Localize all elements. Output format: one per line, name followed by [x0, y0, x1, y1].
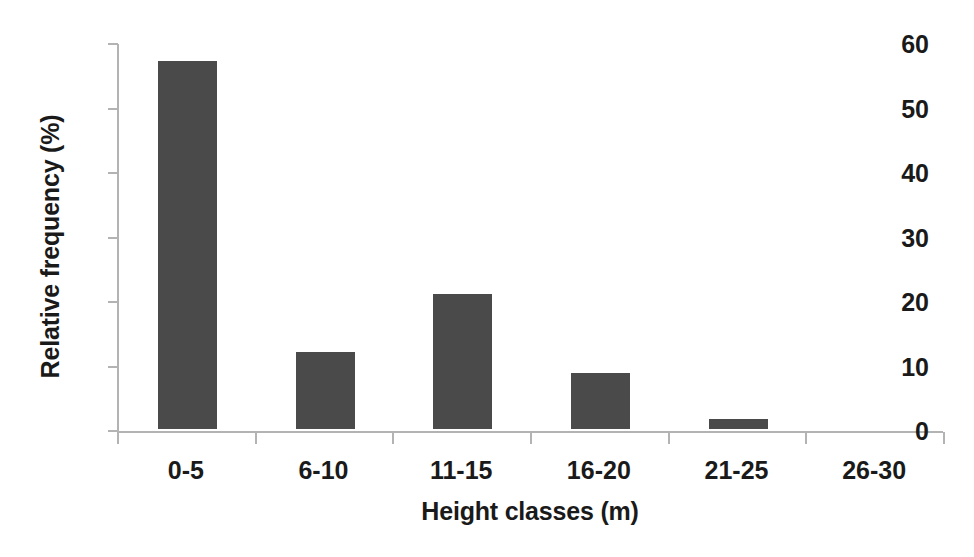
x-tick-label: 6-10 [244, 458, 404, 483]
x-tick-mark [668, 432, 670, 444]
y-tick-mark [108, 366, 118, 368]
y-tick-mark [108, 172, 118, 174]
bar-chart: Relative frequency (%) 6050403020100 0-5… [0, 0, 974, 557]
y-tick-label: 50 [849, 96, 929, 121]
x-tick-label: 0-5 [106, 458, 266, 483]
bar [158, 61, 217, 429]
bar [709, 419, 768, 429]
x-tick-mark [392, 432, 394, 444]
x-tick-label: 26-30 [794, 458, 954, 483]
x-tick-label: 16-20 [519, 458, 679, 483]
x-tick-label: 11-15 [381, 458, 541, 483]
bar [571, 373, 630, 429]
x-tick-mark [805, 432, 807, 444]
y-tick-mark [108, 108, 118, 110]
x-tick-label: 21-25 [657, 458, 817, 483]
y-tick-label: 20 [849, 290, 929, 315]
y-tick-mark [108, 301, 118, 303]
y-tick-label: 0 [849, 419, 929, 444]
y-tick-mark [108, 43, 118, 45]
x-tick-mark [530, 432, 532, 444]
x-tick-mark [943, 432, 945, 444]
x-tick-mark [255, 432, 257, 444]
y-axis-title: Relative frequency (%) [36, 47, 65, 447]
y-tick-label: 60 [849, 32, 929, 57]
y-tick-label: 40 [849, 161, 929, 186]
y-tick-label: 10 [849, 354, 929, 379]
bar [433, 294, 492, 429]
y-tick-mark [108, 237, 118, 239]
plot-area: 6050403020100 0-56-1011-1516-2021-2526-3… [117, 44, 943, 431]
x-axis-title: Height classes (m) [117, 497, 943, 526]
x-tick-mark [117, 432, 119, 444]
bar [296, 352, 355, 429]
y-tick-label: 30 [849, 225, 929, 250]
